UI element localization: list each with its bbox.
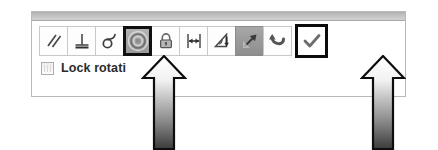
fix-button[interactable]	[151, 26, 180, 56]
perpendicular-icon	[72, 31, 92, 51]
undo-button[interactable]	[263, 26, 292, 56]
sketch-relations-toolbar	[39, 26, 327, 58]
accept-button[interactable]	[295, 24, 328, 58]
lock-rotation-label: Lock rotati	[61, 61, 126, 75]
parallel-lines-icon	[44, 31, 64, 51]
linear-dimension-icon	[184, 31, 204, 51]
lock-rotation-row[interactable]: Lock rotati	[41, 61, 126, 75]
equal-length-button[interactable]	[179, 26, 208, 56]
checkmark-icon	[301, 30, 323, 52]
lock-rotation-checkbox[interactable]	[41, 62, 54, 75]
angle-button[interactable]	[207, 26, 236, 56]
parallel-button[interactable]	[39, 26, 68, 56]
panel-titlebar	[32, 12, 405, 21]
tangent-button[interactable]	[95, 26, 124, 56]
tangent-icon	[100, 31, 120, 51]
perpendicular-button[interactable]	[67, 26, 96, 56]
undo-arrow-icon	[267, 31, 288, 52]
diagonal-arrow-icon	[240, 31, 260, 51]
concentric-button[interactable]	[123, 26, 152, 56]
padlock-icon	[156, 31, 176, 51]
sketch-relations-panel: Lock rotati	[31, 11, 406, 97]
angular-dimension-icon	[212, 31, 232, 51]
concentric-circles-icon	[127, 30, 149, 52]
symmetric-button[interactable]	[235, 26, 264, 56]
